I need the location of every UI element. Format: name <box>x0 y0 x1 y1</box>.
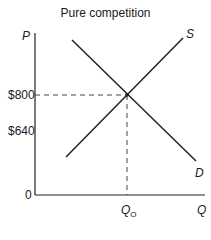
q0-main: Q <box>121 203 130 217</box>
demand-curve <box>72 40 196 161</box>
p-axis-label: P <box>22 29 30 43</box>
tick-640: $640 <box>8 124 35 138</box>
q0-subscript: O <box>130 210 136 219</box>
supply-curve <box>66 38 183 157</box>
demand-label: D <box>195 166 204 180</box>
origin-label: 0 <box>25 188 32 202</box>
q-axis-label: Q <box>197 203 206 217</box>
tick-800: $800 <box>8 88 35 102</box>
equilibrium-point <box>125 93 129 97</box>
q0-label: QO <box>121 203 137 219</box>
supply-label: S <box>186 27 194 41</box>
